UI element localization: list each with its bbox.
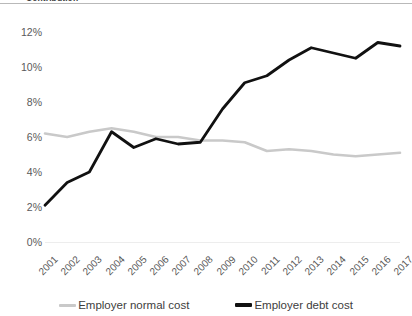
legend-swatch-icon xyxy=(235,303,252,307)
series-employer-debt-cost xyxy=(45,43,400,206)
chart-legend: Employer normal cost Employer debt cost xyxy=(0,294,412,316)
series-employer-normal-cost xyxy=(45,128,400,156)
legend-label: Employer debt cost xyxy=(254,299,352,311)
chart-plot xyxy=(0,0,412,316)
legend-item-employer-debt-cost[interactable]: Employer debt cost xyxy=(235,299,352,311)
legend-label: Employer normal cost xyxy=(78,299,189,311)
legend-swatch-icon xyxy=(59,304,76,307)
legend-item-employer-normal-cost[interactable]: Employer normal cost xyxy=(59,299,189,311)
chart-container: Contribution 0%2%4%6%8%10%12% 2001200220… xyxy=(0,0,412,316)
